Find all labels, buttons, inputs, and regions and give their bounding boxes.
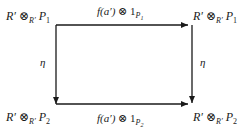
edge-function: f(a′) bbox=[97, 5, 115, 17]
node-subscript: R′ bbox=[216, 117, 223, 126]
node-object-index: 2 bbox=[233, 117, 237, 126]
node-object: P bbox=[39, 110, 46, 124]
tensor-symbol: ⊗ bbox=[19, 110, 29, 124]
node-subscript: R′ bbox=[216, 16, 223, 25]
node-top-right: R′ ⊗R′ P1 bbox=[193, 9, 237, 23]
edge-label-left: η bbox=[40, 55, 45, 69]
node-bottom-right: R′ ⊗R′ P2 bbox=[193, 110, 237, 124]
node-subscript: R′ bbox=[29, 16, 36, 25]
edge-label-bottom: f(a′) ⊗ 1P2 bbox=[97, 111, 143, 125]
tensor-symbol: ⊗ bbox=[118, 112, 127, 124]
edge-label-top: f(a′) ⊗ 1P1 bbox=[97, 4, 143, 18]
node-object-index: 1 bbox=[46, 16, 50, 25]
node-base: R′ bbox=[6, 9, 16, 23]
node-base: R′ bbox=[6, 110, 16, 124]
identity-subscript-index: 1 bbox=[140, 15, 143, 21]
identity-subscript-index: 2 bbox=[140, 122, 143, 128]
tensor-symbol: ⊗ bbox=[206, 110, 216, 124]
edge-label-right: η bbox=[200, 55, 205, 69]
node-base: R′ bbox=[193, 110, 203, 124]
node-base: R′ bbox=[193, 9, 203, 23]
edge-function: f(a′) bbox=[97, 112, 115, 124]
node-object: P bbox=[226, 110, 233, 124]
tensor-symbol: ⊗ bbox=[206, 9, 216, 23]
node-top-left: R′ ⊗R′ P1 bbox=[6, 9, 50, 23]
tensor-symbol: ⊗ bbox=[19, 9, 29, 23]
node-subscript: R′ bbox=[29, 117, 36, 126]
node-object-index: 1 bbox=[233, 16, 237, 25]
node-bottom-left: R′ ⊗R′ P2 bbox=[6, 110, 50, 124]
node-object-index: 2 bbox=[46, 117, 50, 126]
tensor-symbol: ⊗ bbox=[118, 5, 127, 17]
node-object: P bbox=[226, 9, 233, 23]
node-object: P bbox=[39, 9, 46, 23]
